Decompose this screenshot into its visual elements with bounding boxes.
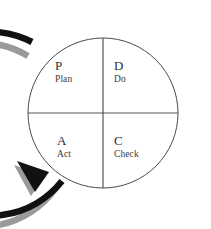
quadrant-letter-check: C [114,134,139,148]
quadrant-letter-plan: P [55,59,72,73]
quadrant-label-check: C Check [114,134,139,159]
quadrant-word-plan: Plan [55,74,72,84]
quadrant-word-check: Check [114,149,139,159]
quadrant-label-act: A Act [57,134,71,159]
quadrant-word-act: Act [57,149,71,159]
quadrant-label-plan: P Plan [55,59,72,84]
quadrant-word-do: Do [114,74,126,84]
quadrant-label-do: D Do [114,59,126,84]
quadrant-letter-do: D [114,59,126,73]
quadrant-letter-act: A [57,134,71,148]
pdca-diagram-graphic [0,0,211,229]
pdca-cycle-diagram: P Plan D Do A Act C Check [0,0,211,229]
